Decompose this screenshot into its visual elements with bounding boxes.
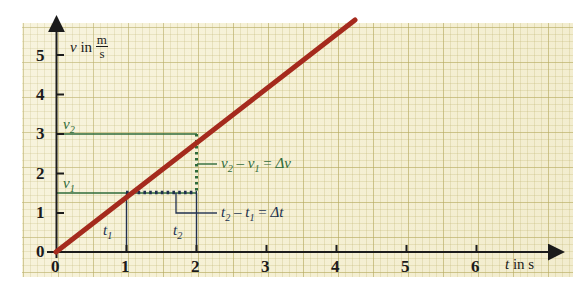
delta-t-eq-result: Δt <box>271 204 284 220</box>
x-tick-5: 5 <box>401 257 410 277</box>
y-tick-0: 0 <box>36 242 45 262</box>
v2-label: v2 <box>63 116 75 135</box>
delta-t-eq-a-sub: 2 <box>225 212 230 223</box>
delta-t-eq-minus: – <box>234 204 242 220</box>
x-axis-label-var: t <box>505 256 509 272</box>
delta-v-eq-a: v <box>221 155 228 171</box>
y-axis-label: v in m s <box>70 33 108 61</box>
x-axis-label: t in s <box>505 256 534 273</box>
y-axis-unit-fraction: m s <box>96 33 108 61</box>
x-tick-2: 2 <box>191 257 200 277</box>
v1-label: v1 <box>63 175 75 194</box>
delta-v-eq-a-sub: 2 <box>228 163 233 174</box>
x-tick-4: 4 <box>331 257 340 277</box>
t1-label: t1 <box>103 222 112 241</box>
x-tick-3: 3 <box>261 257 270 277</box>
t2-label: t2 <box>173 222 182 241</box>
x-axis-label-in: in <box>513 256 525 272</box>
delta-v-equation: v2 – v1 = Δv <box>221 155 291 174</box>
y-axis-unit-numerator: m <box>96 33 108 47</box>
y-tick-5: 5 <box>36 46 45 66</box>
delta-v-eq-result: Δv <box>276 155 291 171</box>
v2-label-var: v <box>63 116 70 132</box>
figure-canvas: 5 4 3 2 1 0 0 1 2 3 4 5 6 v in m s t in … <box>0 0 588 289</box>
delta-t-eq-b-sub: 1 <box>249 212 254 223</box>
delta-t-equation: t2 – t1 = Δt <box>221 204 283 223</box>
x-axis-label-unit: s <box>528 256 534 272</box>
delta-v-eq-b-sub: 1 <box>254 163 259 174</box>
t1-label-sub: 1 <box>107 230 112 241</box>
y-axis-unit-denominator: s <box>96 47 108 60</box>
x-tick-0: 0 <box>51 257 60 277</box>
y-tick-2: 2 <box>36 164 45 184</box>
t2-label-sub: 2 <box>177 230 182 241</box>
y-tick-3: 3 <box>36 124 45 144</box>
delta-t-bracket <box>176 193 197 213</box>
x-axis <box>47 245 550 252</box>
v2-label-sub: 2 <box>70 124 75 135</box>
y-axis-label-var: v <box>70 39 77 55</box>
delta-v-eq-minus: – <box>237 155 245 171</box>
y-tick-1: 1 <box>36 203 45 223</box>
x-tick-6: 6 <box>471 257 480 277</box>
v1-label-sub: 1 <box>70 183 75 194</box>
delta-t-eq-equals: = <box>258 204 266 220</box>
v1-label-var: v <box>63 175 70 191</box>
x-tick-1: 1 <box>121 257 130 277</box>
delta-v-eq-equals: = <box>263 155 271 171</box>
y-tick-4: 4 <box>36 85 45 105</box>
y-axis-label-in: in <box>80 39 92 55</box>
y-axis <box>57 30 65 258</box>
